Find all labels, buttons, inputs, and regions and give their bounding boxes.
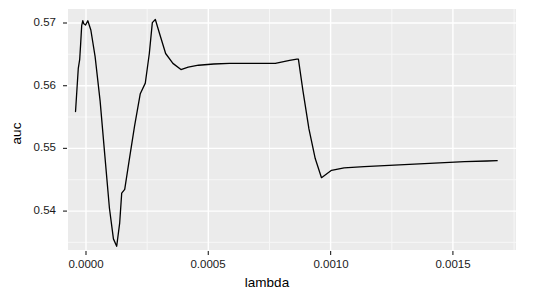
y-axis-title: auc [9,104,24,164]
x-tick-label: 0.0000 [51,258,121,270]
chart-figure: 0.54 0.55 0.56 0.57 0.0000 0.0005 0.0010… [0,0,534,304]
y-axis-ticks [63,23,67,211]
y-tick-label: 0.57 [10,16,56,28]
x-tick-label: 0.0005 [173,258,243,270]
x-tick-label: 0.0015 [418,258,488,270]
x-tick-label: 0.0010 [296,258,366,270]
y-tick-label: 0.54 [10,204,56,216]
y-tick-label: 0.56 [10,79,56,91]
x-axis-title: lambda [0,275,534,290]
panel-background [68,9,516,250]
x-axis-ticks [86,251,453,255]
